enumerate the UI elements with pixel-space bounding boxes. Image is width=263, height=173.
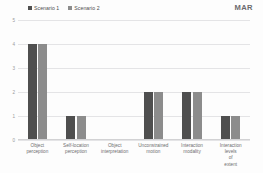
bar[interactable] (77, 116, 86, 140)
y-axis-tick-label: 4 (12, 42, 15, 47)
square-marker-icon (28, 6, 32, 10)
legend-label: Scenario 2 (74, 5, 99, 11)
x-axis-tick-label: Object interpretation (95, 143, 134, 165)
bar-group (134, 20, 173, 140)
bar-group (57, 20, 96, 140)
bar-group (173, 20, 212, 140)
bar[interactable] (38, 44, 47, 140)
bar-group (211, 20, 250, 140)
bar[interactable] (221, 116, 230, 140)
y-axis-tick-label: 3 (12, 66, 15, 71)
legend-label: Scenario 1 (34, 5, 59, 11)
bar[interactable] (193, 92, 202, 140)
y-axis-tick-label: 0 (12, 138, 15, 143)
x-axis-tick-label: Self-location perception (57, 143, 96, 165)
bar[interactable] (28, 44, 37, 140)
x-axis-baseline (18, 139, 250, 140)
x-axis-tick-label: Unconstrained motion (134, 143, 173, 165)
chart-legend: Scenario 1Scenario 2 (28, 3, 100, 13)
y-axis-tick-label: 1 (12, 114, 15, 119)
bar-group (95, 20, 134, 140)
bar[interactable] (154, 92, 163, 140)
bar-group (18, 20, 57, 140)
x-axis-tick-label: Object perception (18, 143, 57, 165)
x-axis-labels: Object perceptionSelf-location perceptio… (18, 143, 250, 165)
x-axis-tick-label: Interaction modality (173, 143, 212, 165)
corner-tag-label: MAR (235, 3, 254, 12)
legend-entry[interactable]: Scenario 1 (28, 5, 59, 11)
square-marker-icon (68, 6, 72, 10)
legend-entry[interactable]: Scenario 2 (68, 5, 99, 11)
bars-layer (18, 20, 250, 140)
gridline: 0 (18, 140, 250, 141)
bar[interactable] (66, 116, 75, 140)
bar-chart-figure: Scenario 1Scenario 2 MAR 012345 Object p… (0, 0, 263, 173)
y-axis-tick-label: 2 (12, 90, 15, 95)
bar[interactable] (231, 116, 240, 140)
x-axis-tick-label: Interaction levels of extent (211, 143, 250, 165)
y-axis-tick-label: 5 (12, 18, 15, 23)
bar[interactable] (144, 92, 153, 140)
bar[interactable] (182, 92, 191, 140)
plot-area: 012345 (18, 20, 250, 140)
